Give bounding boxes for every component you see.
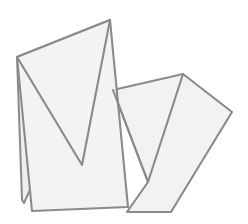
illustration-canvas (0, 0, 248, 224)
folded-paper-figure (0, 0, 248, 224)
